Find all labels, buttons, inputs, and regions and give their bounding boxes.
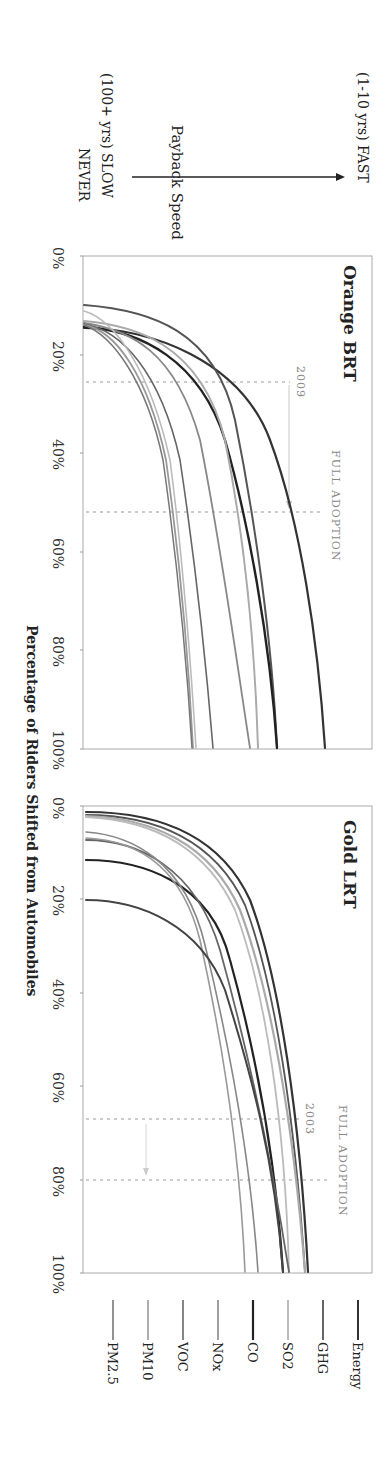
full-adoption-label-gold: FULL ADOPTION bbox=[336, 1105, 349, 1217]
tick-label: 100% bbox=[50, 730, 66, 770]
tick-label: 40% bbox=[50, 979, 66, 1010]
tick-label: 60% bbox=[50, 538, 66, 569]
tick-label: 20% bbox=[50, 885, 66, 916]
tick-label: 20% bbox=[50, 341, 66, 372]
x-axis-title: Percentage of Riders Shifted from Automo… bbox=[24, 625, 40, 996]
year-label-2003: 2003 bbox=[303, 1103, 316, 1135]
legend-label-pm10: PM10 bbox=[140, 1342, 155, 1381]
tick-label: 60% bbox=[50, 1072, 66, 1103]
tick-label: 80% bbox=[50, 636, 66, 667]
legend-swatches bbox=[113, 1300, 358, 1340]
gold-lrt-panel bbox=[80, 806, 372, 1273]
panel-title-orange-brt: Orange BRT bbox=[340, 265, 360, 382]
panel-title-gold-lrt: Gold LRT bbox=[340, 820, 360, 909]
legend-label-voc: VOC bbox=[175, 1342, 190, 1372]
tick-label: 80% bbox=[50, 1166, 66, 1197]
tick-label: 0% bbox=[50, 797, 66, 819]
full-adoption-label-orange: FULL ADOPTION bbox=[329, 450, 342, 562]
legend-label-ghg: GHG bbox=[315, 1342, 330, 1374]
tick-label: 40% bbox=[50, 439, 66, 470]
speed-arrow-icon bbox=[132, 173, 345, 181]
legend-label-nox: NOx bbox=[210, 1342, 225, 1371]
legend-label-energy: Energy bbox=[350, 1342, 365, 1389]
legend-label-co: CO bbox=[245, 1342, 260, 1363]
tick-label: 100% bbox=[50, 1254, 66, 1294]
tick-label: 0% bbox=[50, 247, 66, 269]
year-label-2009: 2009 bbox=[294, 366, 307, 398]
legend-label-so2: SO2 bbox=[280, 1342, 295, 1370]
legend-label-pm25: PM2.5 bbox=[105, 1342, 120, 1385]
